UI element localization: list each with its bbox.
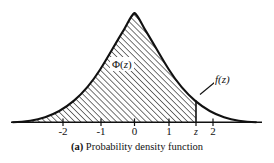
curve-label-fz: f(z) — [214, 73, 231, 85]
area-label-phi-z: Φ(z) — [110, 57, 134, 71]
tick-label-0: 0 — [125, 125, 145, 137]
phi-paren-close: ) — [128, 58, 132, 70]
normal-distribution-plot — [0, 0, 274, 163]
tick-label-2: 2 — [203, 125, 223, 137]
tick-label-neg2: -2 — [53, 125, 73, 137]
figure-caption: (a) Probability density function — [0, 140, 274, 153]
fz-leader-line — [200, 83, 215, 95]
caption-text: Probability density function — [86, 141, 203, 152]
caption-tag: (a) — [71, 141, 83, 152]
probability-density-figure: -2 -1 0 1 z 2 Φ(z) f(z) (a) Probability … — [0, 0, 274, 163]
tick-label-neg1: -1 — [91, 125, 111, 137]
shaded-area-phi-z — [10, 8, 202, 122]
phi-symbol: Φ( — [112, 58, 124, 70]
tick-label-1: 1 — [159, 125, 179, 137]
